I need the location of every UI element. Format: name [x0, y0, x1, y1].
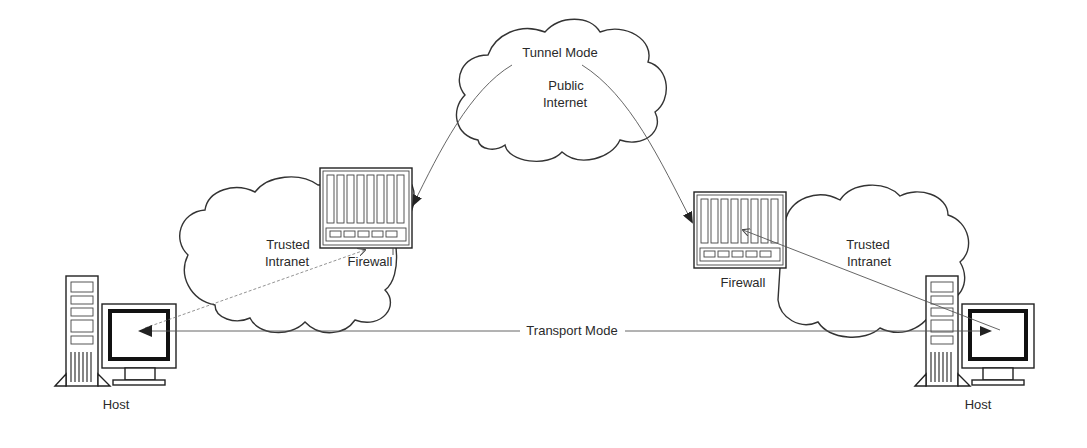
left-intranet-label: Intranet	[265, 254, 309, 269]
right-firewall	[694, 192, 786, 268]
left-firewall	[320, 168, 412, 255]
transport-mode-label: Transport Mode	[526, 323, 617, 338]
right-host-label: Host	[965, 397, 992, 412]
right-trusted-label: Trusted	[846, 237, 890, 252]
left-firewall-label: Firewall	[348, 254, 393, 269]
right-firewall-label: Firewall	[721, 275, 766, 290]
monitor-icon	[962, 304, 1034, 385]
left-trusted-label: Trusted	[266, 237, 310, 252]
public-label: Public	[548, 78, 584, 93]
tunnel-mode-label: Tunnel Mode	[522, 45, 597, 60]
right-intranet-label: Intranet	[847, 254, 891, 269]
left-host-label: Host	[103, 397, 130, 412]
monitor-icon	[102, 304, 176, 385]
internet-label: Internet	[543, 95, 587, 110]
ipsec-modes-diagram: Tunnel Mode Public Internet Trusted Intr…	[0, 0, 1087, 448]
